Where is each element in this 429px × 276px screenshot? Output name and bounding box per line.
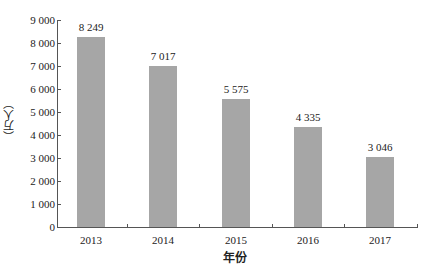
bar-value-label: 4 335 <box>278 111 338 123</box>
x-tick-mark <box>417 224 418 228</box>
bar-value-label: 5 575 <box>206 83 266 95</box>
y-tick-label: 3 000 <box>30 152 55 164</box>
y-tick-label: 4 000 <box>30 129 55 141</box>
y-tick-label: 1 000 <box>30 198 55 210</box>
y-tick-label: 7 000 <box>30 60 55 72</box>
x-tick-mark <box>272 224 273 228</box>
y-tick-label: 9 000 <box>30 14 55 26</box>
x-tick-mark <box>344 224 345 228</box>
x-tick-mark <box>127 224 128 228</box>
bar-2016 <box>294 127 322 227</box>
x-tick-label: 2015 <box>211 234 261 246</box>
y-tick-label: 6 000 <box>30 83 55 95</box>
bar-value-label: 7 017 <box>133 50 193 62</box>
y-tick-label: 2 000 <box>30 175 55 187</box>
x-axis-line <box>57 227 418 228</box>
y-axis-label: （万人） <box>2 95 22 145</box>
bar-2013 <box>77 37 105 227</box>
x-axis-label: 年份 <box>210 248 260 265</box>
y-tick-label: 0 <box>50 221 56 233</box>
bar-2015 <box>222 99 250 227</box>
x-tick-mark <box>199 224 200 228</box>
bar-chart: （万人） 01 0002 0003 0004 0005 0006 0007 00… <box>0 0 429 276</box>
bar-2017 <box>366 157 394 227</box>
x-tick-label: 2016 <box>283 234 333 246</box>
x-tick-label: 2014 <box>138 234 188 246</box>
x-tick-label: 2013 <box>66 234 116 246</box>
bar-value-label: 3 046 <box>350 141 410 153</box>
y-tick-label: 8 000 <box>30 37 55 49</box>
y-tick-label: 5 000 <box>30 106 55 118</box>
y-axis-line <box>57 20 58 228</box>
bar-2014 <box>149 66 177 227</box>
bar-value-label: 8 249 <box>61 21 121 33</box>
x-tick-label: 2017 <box>355 234 405 246</box>
